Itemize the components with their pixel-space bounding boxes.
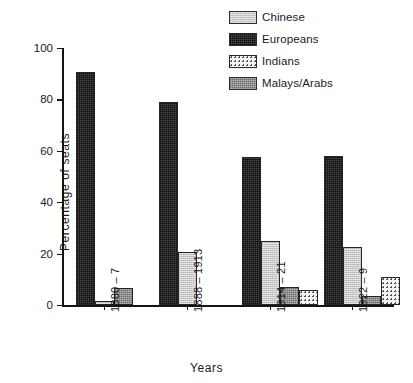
legend-item-europeans: Europeans	[229, 30, 409, 48]
y-tick-label: 80	[40, 93, 53, 105]
y-tick: 60	[57, 151, 62, 152]
bar-europeans-1	[76, 72, 95, 305]
bar-indians-3	[299, 290, 318, 305]
legend-swatch-chinese-icon	[229, 11, 257, 24]
y-tick: 80	[57, 99, 62, 100]
plot-area: 020406080100	[62, 48, 394, 305]
y-tick-label: 20	[40, 248, 53, 260]
y-tick: 0	[57, 305, 62, 306]
bar-europeans-4	[324, 156, 343, 305]
y-tick: 20	[57, 254, 62, 255]
y-tick-label: 100	[34, 42, 53, 54]
y-tick-label: 60	[40, 145, 53, 157]
legend-label-chinese: Chinese	[262, 11, 305, 23]
y-tick-label: 40	[40, 196, 53, 208]
x-tick	[352, 305, 353, 310]
x-category-label: 1922 – 9	[357, 268, 369, 312]
x-axis-title: Years	[0, 361, 413, 375]
y-tick: 100	[57, 48, 62, 49]
x-category-label: 1914 – 21	[275, 261, 287, 312]
y-axis-line	[62, 48, 64, 305]
y-tick: 40	[57, 202, 62, 203]
y-tick-label: 0	[47, 299, 53, 311]
x-tick	[270, 305, 271, 310]
legend-swatch-europeans-icon	[229, 33, 257, 46]
x-tick	[187, 305, 188, 310]
x-tick	[104, 305, 105, 310]
x-category-label: 1888 – 1913	[192, 249, 204, 312]
bar-chart: Chinese Europeans Indians Malays/Arabs P…	[0, 0, 413, 383]
legend-item-chinese: Chinese	[229, 8, 409, 26]
bar-indians-4	[381, 277, 400, 305]
bar-europeans-2	[159, 102, 178, 305]
bar-europeans-3	[242, 157, 261, 305]
legend-label-europeans: Europeans	[262, 33, 319, 45]
x-category-label: 1880 – 7	[109, 268, 121, 312]
